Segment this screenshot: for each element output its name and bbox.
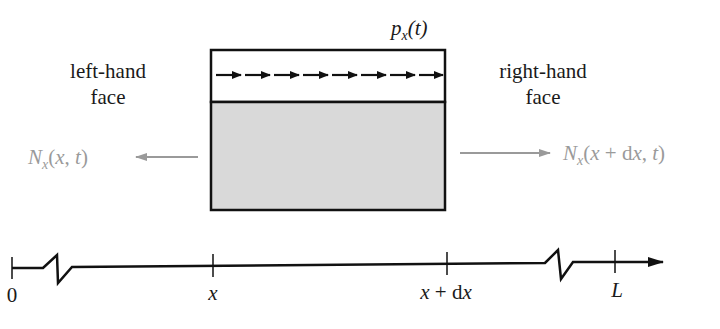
right-force-label: Nx(x + dx, t) [562, 141, 665, 168]
tick-label-x: x [207, 281, 218, 305]
bar-element-diagram: px(t) left-hand face right-hand face Nx(… [0, 0, 720, 329]
left-face-label-line1: left-hand [70, 59, 146, 83]
tick-label-L: L [610, 278, 623, 302]
tick-label-x-plus-dx: x + dx [419, 280, 472, 304]
right-face-label-line1: right-hand [499, 59, 587, 83]
left-face-label-line2: face [91, 85, 126, 109]
element-body [211, 102, 445, 210]
left-force-label: Nx(x, t) [27, 145, 88, 172]
right-face-label-line2: face [526, 85, 561, 109]
tick-label-0: 0 [7, 283, 18, 307]
axis-line [12, 250, 663, 283]
x-axis [12, 250, 663, 283]
load-label: px(t) [389, 16, 428, 43]
